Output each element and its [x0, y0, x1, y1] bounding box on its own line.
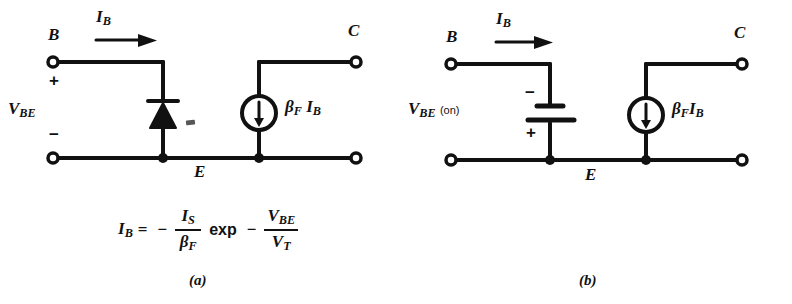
equation-equals: = — [138, 220, 148, 240]
label-source-beta-ib-b: βFIB — [672, 100, 704, 120]
scan-artifact-a — [186, 120, 195, 126]
caption-b: (b) — [579, 272, 597, 289]
terminal-emitter-left-b — [446, 155, 456, 165]
terminal-base-a — [48, 57, 58, 67]
caption-a: (a) — [189, 272, 207, 289]
label-terminal-collector-b: C — [734, 24, 745, 41]
equation-fraction-is-betaf: IS βF — [175, 206, 201, 255]
junction-battery-emitter-b — [545, 155, 555, 165]
current-arrow-a — [96, 34, 157, 47]
current-source-symbol-b — [629, 98, 663, 132]
label-current-ib-b: IB — [496, 10, 511, 30]
label-voltage-vbe-on-b: VBE (on) — [408, 100, 459, 120]
fraction-denominator-vt: VT — [269, 231, 294, 254]
label-terminal-emitter-a: E — [194, 163, 205, 180]
junction-source-emitter-a — [254, 153, 264, 163]
equation-minus-2: − — [247, 220, 257, 240]
label-terminal-emitter-b: E — [585, 166, 596, 183]
equation-ib-a: IB = − IS βF exp − VBE VT — [118, 206, 301, 255]
circuit-schematic-b — [400, 0, 792, 304]
terminal-collector-b — [737, 59, 747, 69]
battery-symbol-b — [528, 106, 574, 120]
label-source-beta-ib-a: βF IB — [285, 98, 321, 118]
equation-minus-1: − — [157, 220, 167, 240]
fraction-numerator-is: IS — [178, 206, 197, 229]
circuit-panel-a: B C E IB VBE + − βF IB IB = − IS βF exp … — [0, 0, 400, 304]
junction-source-emitter-b — [641, 155, 651, 165]
terminal-emitter-left-a — [48, 153, 58, 163]
terminal-collector-a — [351, 57, 361, 67]
label-terminal-collector-a: C — [348, 22, 359, 39]
equation-exp: exp — [209, 221, 237, 239]
circuit-panel-b: B C E IB VBE (on) − + βFIB (b) — [400, 0, 792, 304]
fraction-denominator-betaf: βF — [177, 231, 200, 254]
label-terminal-base-b: B — [446, 28, 457, 45]
diode-symbol-a — [148, 101, 178, 128]
junction-diode-emitter-a — [158, 153, 168, 163]
label-polarity-minus-a: − — [49, 126, 59, 143]
label-terminal-base-a: B — [48, 26, 59, 43]
current-arrow-b — [496, 36, 553, 49]
label-voltage-vbe-a: VBE — [8, 100, 36, 120]
terminal-base-b — [446, 59, 456, 69]
equation-lhs: IB — [118, 219, 133, 241]
circuit-schematic-a — [0, 0, 400, 304]
equation-fraction-vbe-vt: VBE VT — [264, 206, 298, 255]
fraction-numerator-vbe: VBE — [264, 206, 298, 229]
label-polarity-plus-b: + — [526, 124, 536, 141]
label-current-ib-a: IB — [96, 8, 111, 28]
terminal-emitter-right-b — [737, 155, 747, 165]
label-polarity-plus-a: + — [49, 72, 59, 89]
label-polarity-minus-b: − — [525, 84, 535, 101]
terminal-emitter-right-a — [351, 153, 361, 163]
current-source-symbol-a — [242, 96, 276, 130]
figure-bjt-models: B C E IB VBE + − βF IB IB = − IS βF exp … — [0, 0, 792, 304]
